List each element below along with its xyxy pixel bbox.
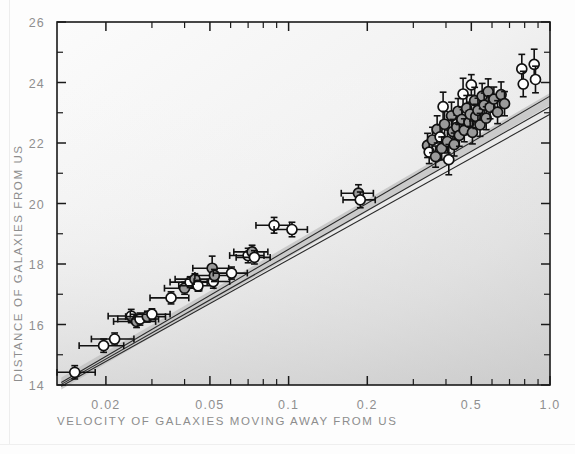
x-axis-label: VELOCITY OF GALAXIES MOVING AWAY FROM US bbox=[57, 415, 397, 427]
y-tick-label: 22 bbox=[29, 137, 45, 151]
x-tick-label: 1.0 bbox=[540, 398, 561, 412]
y-tick-label: 14 bbox=[29, 379, 45, 393]
x-tick-label: 0.2 bbox=[357, 398, 378, 412]
y-tick-label: 20 bbox=[29, 198, 45, 212]
y-tick-label: 18 bbox=[29, 258, 45, 272]
x-tick-label: 0.05 bbox=[195, 398, 224, 412]
x-tick-label: 0.5 bbox=[461, 398, 482, 412]
y-tick-labels: 14161820222426 bbox=[29, 16, 45, 393]
x-tick-label: 0.02 bbox=[91, 398, 120, 412]
y-tick-label: 26 bbox=[29, 16, 45, 30]
plot-canvas: 0.020.050.10.20.51.0 14161820222426 VELO… bbox=[0, 0, 575, 454]
x-tick-labels: 0.020.050.10.20.51.0 bbox=[91, 398, 560, 412]
x-tick-label: 0.1 bbox=[278, 398, 299, 412]
hubble-diagram-figure: 0.020.050.10.20.51.0 14161820222426 VELO… bbox=[0, 0, 575, 454]
y-tick-label: 16 bbox=[29, 319, 45, 333]
plot-background bbox=[57, 22, 550, 385]
y-tick-label: 24 bbox=[29, 77, 45, 91]
y-axis-label: DISTANCE OF GALAXIES FROM US bbox=[12, 144, 24, 382]
